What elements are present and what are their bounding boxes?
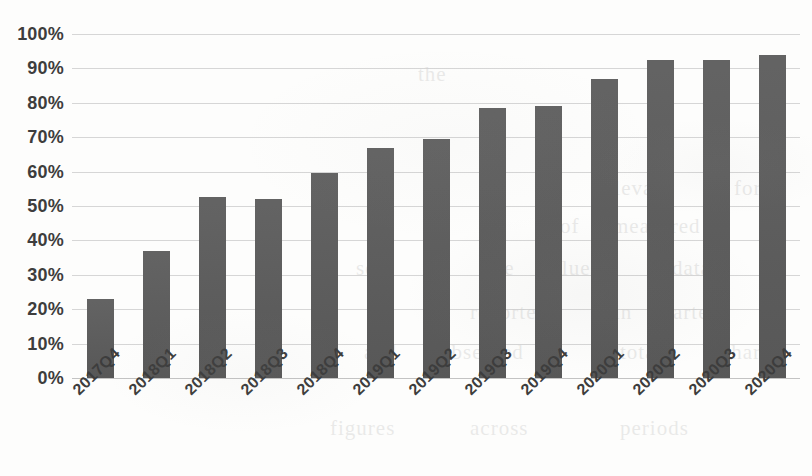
y-axis-tick-label: 30%: [27, 264, 64, 285]
y-axis-tick-label: 20%: [27, 299, 64, 320]
x-axis-tick: 2019Q4: [535, 378, 562, 476]
x-axis: 2017Q42018Q12018Q22018Q32018Q42019Q12019…: [72, 378, 800, 476]
y-axis-tick-label: 90%: [27, 58, 64, 79]
x-axis-tick: 2019Q3: [479, 378, 506, 476]
x-axis-tick: 2018Q3: [255, 378, 282, 476]
x-axis-tick: 2020Q3: [703, 378, 730, 476]
y-axis-tick-label: 70%: [27, 127, 64, 148]
bar: [647, 60, 674, 378]
x-axis-tick: 2019Q2: [423, 378, 450, 476]
x-axis-tick: 2018Q2: [199, 378, 226, 476]
x-axis-tick: 2020Q4: [759, 378, 786, 476]
bar: [535, 106, 562, 378]
plot-area: [72, 34, 800, 378]
bar: [759, 55, 786, 378]
x-axis-tick: 2017Q4: [87, 378, 114, 476]
y-axis-tick-label: 60%: [27, 161, 64, 182]
bar: [479, 108, 506, 378]
y-axis-tick-label: 40%: [27, 230, 64, 251]
bar: [591, 79, 618, 378]
bar: [703, 60, 730, 378]
y-axis-tick-label: 100%: [17, 24, 64, 45]
chart-page: therelevantforofmeasuredsetthevaluesdata…: [0, 0, 812, 476]
y-axis: 100%90%80%70%60%50%40%30%20%10%0%: [0, 34, 64, 378]
x-axis-tick: 2018Q4: [311, 378, 338, 476]
bar: [423, 139, 450, 378]
bar-series: [72, 34, 800, 378]
bar: [367, 148, 394, 378]
y-axis-tick-label: 10%: [27, 333, 64, 354]
y-axis-tick-label: 80%: [27, 92, 64, 113]
x-axis-tick: 2020Q2: [647, 378, 674, 476]
x-axis-tick: 2018Q1: [143, 378, 170, 476]
y-axis-tick-label: 0%: [38, 368, 64, 389]
y-axis-tick-label: 50%: [27, 196, 64, 217]
x-axis-tick: 2020Q1: [591, 378, 618, 476]
x-axis-tick: 2019Q1: [367, 378, 394, 476]
